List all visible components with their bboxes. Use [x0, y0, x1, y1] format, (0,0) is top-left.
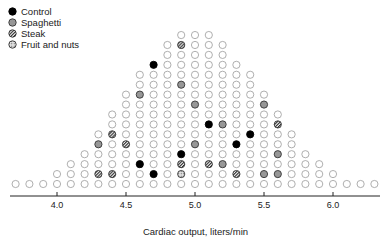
open-point: [205, 141, 212, 148]
open-point: [122, 180, 129, 187]
open-point: [274, 141, 281, 148]
spaghetti-point: [260, 101, 267, 108]
open-point: [343, 180, 350, 187]
steak-point: [109, 131, 116, 138]
open-point: [164, 180, 171, 187]
open-point: [122, 170, 129, 177]
open-point: [136, 111, 143, 118]
steak-point: [109, 170, 116, 177]
open-point: [191, 31, 198, 38]
open-point: [136, 131, 143, 138]
open-point: [288, 141, 295, 148]
x-axis-label: Cardiac output, liters/min: [0, 226, 391, 237]
open-point: [205, 151, 212, 158]
open-point: [81, 151, 88, 158]
open-point: [302, 180, 309, 187]
open-point: [205, 170, 212, 177]
open-point: [109, 151, 116, 158]
open-point: [219, 111, 226, 118]
open-point: [233, 61, 240, 68]
open-point: [191, 121, 198, 128]
open-point: [329, 170, 336, 177]
x-tick-label: 5.5: [249, 200, 279, 210]
open-point: [178, 51, 185, 58]
open-point: [247, 71, 254, 78]
spaghetti-point: [191, 141, 198, 148]
open-point: [150, 81, 157, 88]
open-point: [205, 71, 212, 78]
open-point: [316, 170, 323, 177]
open-point: [316, 161, 323, 168]
x-tick-label: 4.0: [42, 200, 72, 210]
open-point: [178, 180, 185, 187]
open-point: [274, 180, 281, 187]
open-point: [164, 161, 171, 168]
open-point: [191, 161, 198, 168]
open-point: [191, 61, 198, 68]
open-point: [191, 111, 198, 118]
steak-point: [205, 161, 212, 168]
open-point: [205, 41, 212, 48]
open-point: [178, 121, 185, 128]
open-point: [178, 91, 185, 98]
open-point: [136, 170, 143, 177]
steak-point: [178, 41, 185, 48]
open-point: [109, 141, 116, 148]
open-point: [219, 41, 226, 48]
open-point: [302, 170, 309, 177]
open-point: [136, 81, 143, 88]
open-point: [205, 91, 212, 98]
open-point: [136, 121, 143, 128]
open-point: [219, 180, 226, 187]
open-point: [219, 51, 226, 58]
open-point: [150, 151, 157, 158]
control-point: [205, 121, 212, 128]
spaghetti-point: [178, 81, 185, 88]
x-tick-label: 6.0: [318, 200, 348, 210]
open-point: [233, 81, 240, 88]
open-point: [191, 51, 198, 58]
open-point: [191, 81, 198, 88]
spaghetti-point: [260, 170, 267, 177]
open-point: [247, 151, 254, 158]
open-point: [288, 151, 295, 158]
open-point: [247, 91, 254, 98]
open-point: [219, 151, 226, 158]
open-point: [122, 101, 129, 108]
spaghetti-point: [95, 141, 102, 148]
open-point: [205, 51, 212, 58]
fruit-point: [178, 170, 185, 177]
control-point: [233, 141, 240, 148]
open-point: [95, 161, 102, 168]
data-points: [12, 31, 378, 187]
open-point: [122, 151, 129, 158]
open-point: [164, 91, 171, 98]
open-point: [357, 180, 364, 187]
open-point: [288, 170, 295, 177]
open-point: [150, 101, 157, 108]
spaghetti-point: [136, 91, 143, 98]
open-point: [109, 121, 116, 128]
open-point: [260, 91, 267, 98]
open-point: [233, 151, 240, 158]
control-point: [150, 61, 157, 68]
open-point: [316, 180, 323, 187]
open-point: [260, 161, 267, 168]
open-point: [150, 111, 157, 118]
open-point: [247, 170, 254, 177]
open-point: [191, 131, 198, 138]
open-point: [274, 161, 281, 168]
open-point: [260, 151, 267, 158]
open-point: [191, 91, 198, 98]
open-point: [178, 111, 185, 118]
open-point: [205, 81, 212, 88]
open-point: [67, 161, 74, 168]
x-tick-label: 4.5: [111, 200, 141, 210]
open-point: [205, 131, 212, 138]
open-point: [122, 161, 129, 168]
open-point: [205, 101, 212, 108]
open-point: [164, 151, 171, 158]
spaghetti-point: [274, 170, 281, 177]
open-point: [247, 101, 254, 108]
spaghetti-point: [274, 151, 281, 158]
